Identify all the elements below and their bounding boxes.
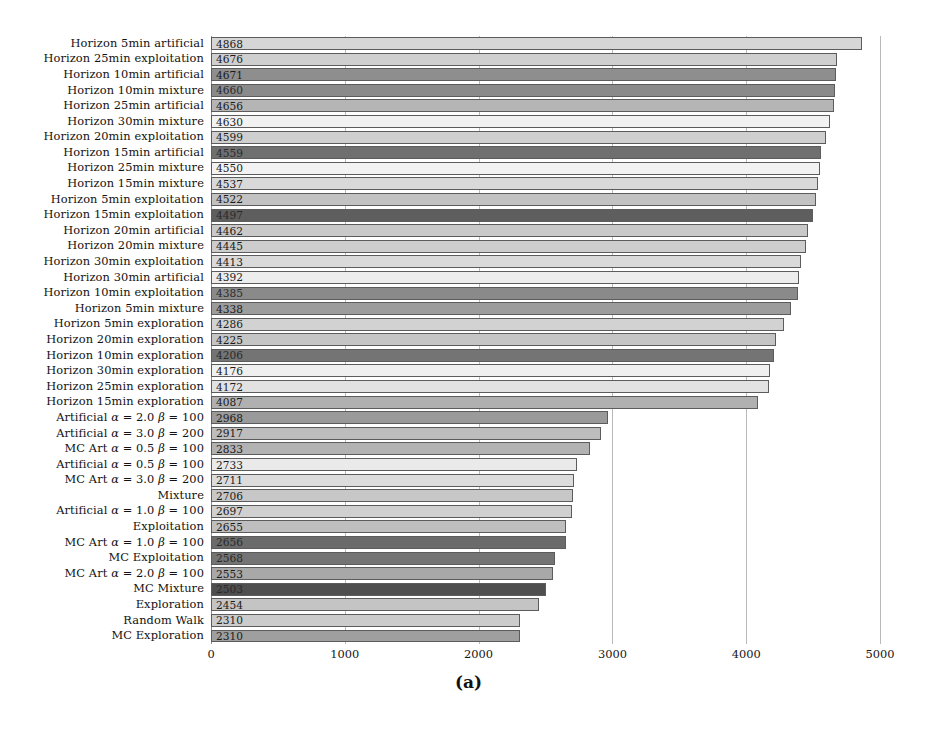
bar-row: Horizon 15min mixture4537: [211, 176, 880, 192]
bar-row: MC Art α = 2.0 β = 1002553: [211, 566, 880, 582]
bar-row: Exploration2454: [211, 597, 880, 613]
bar-category-label: Exploitation: [133, 521, 204, 532]
bar-row: MC Exploitation2568: [211, 550, 880, 566]
bar-category-label: Horizon 15min mixture: [67, 178, 204, 189]
bar: 2454: [211, 598, 539, 611]
bar-row: MC Art α = 1.0 β = 1002656: [211, 535, 880, 551]
x-tick-label-3000: 3000: [598, 647, 627, 661]
bar-category-label: Horizon 30min exploitation: [43, 256, 204, 267]
bar-category-label: MC Art α = 2.0 β = 100: [65, 568, 204, 579]
bar-row: Horizon 5min mixture4338: [211, 301, 880, 317]
bar-row: Horizon 15min artificial4559: [211, 145, 880, 161]
bar-category-label: Horizon 15min exploitation: [43, 210, 204, 221]
bar: 2503: [211, 583, 546, 596]
x-tick-label-0: 0: [207, 647, 214, 661]
bar-row: MC Art α = 0.5 β = 1002833: [211, 441, 880, 457]
bar: 2833: [211, 442, 590, 455]
bar-value-label: 2454: [216, 600, 243, 611]
bar-row: Horizon 20min artificial4462: [211, 223, 880, 239]
bar: 4087: [211, 396, 758, 409]
x-axis: 010002000300040005000: [211, 644, 880, 670]
bar: 4522: [211, 193, 816, 206]
bar-category-label: Horizon 5min mixture: [75, 303, 204, 314]
bar-value-label: 4497: [216, 210, 243, 221]
bar: 4392: [211, 271, 799, 284]
bar: 2310: [211, 630, 520, 643]
bar-value-label: 4522: [216, 194, 243, 205]
bar-category-label: Horizon 25min mixture: [67, 163, 204, 174]
bar: 2733: [211, 458, 577, 471]
bar-value-label: 4338: [216, 303, 243, 314]
bar-row: Horizon 10min exploration4206: [211, 348, 880, 364]
bar-category-label: Random Walk: [123, 615, 204, 626]
bar: 2697: [211, 505, 572, 518]
bar-value-label: 4286: [216, 319, 243, 330]
bar-row: Horizon 5min exploration4286: [211, 317, 880, 333]
bar-value-label: 4445: [216, 241, 243, 252]
bar-category-label: Artificial α = 3.0 β = 200: [56, 428, 204, 439]
bar-category-label: Horizon 30min exploration: [46, 365, 204, 376]
x-tick-label-1000: 1000: [330, 647, 359, 661]
bar-value-label: 4225: [216, 334, 243, 345]
bar-row: Horizon 25min exploration4172: [211, 379, 880, 395]
bar-row: Horizon 15min exploration4087: [211, 395, 880, 411]
bar-value-label: 4550: [216, 163, 243, 174]
bar: 4462: [211, 224, 808, 237]
bar-value-label: 4630: [216, 116, 243, 127]
bar-value-label: 4671: [216, 69, 243, 80]
bar-value-label: 4176: [216, 366, 243, 377]
bar: 4497: [211, 209, 813, 222]
bar-row: Horizon 30min mixture4630: [211, 114, 880, 130]
bar-value-label: 4385: [216, 288, 243, 299]
bar-category-label: Horizon 10min artificial: [63, 69, 204, 80]
bar-value-label: 4462: [216, 225, 243, 236]
bar-value-label: 4660: [216, 85, 243, 96]
bar-category-label: Horizon 15min artificial: [63, 147, 204, 158]
bar-row: Random Walk2310: [211, 613, 880, 629]
bar-category-label: Horizon 20min mixture: [67, 241, 204, 252]
bar: 4225: [211, 333, 776, 346]
bar-row: Horizon 30min exploration4176: [211, 363, 880, 379]
bar-value-label: 2656: [216, 537, 243, 548]
bar-category-label: MC Exploitation: [109, 553, 204, 564]
bar-value-label: 2711: [216, 475, 243, 486]
bar: 2655: [211, 520, 566, 533]
bar-value-label: 4599: [216, 132, 243, 143]
bar-value-label: 4206: [216, 350, 243, 361]
bar-row: Exploitation2655: [211, 519, 880, 535]
bar: 4537: [211, 177, 818, 190]
bar-value-label: 4413: [216, 257, 243, 268]
gridline-5000: [880, 36, 881, 644]
bar: 2568: [211, 552, 555, 565]
bar-row: Artificial α = 1.0 β = 1002697: [211, 504, 880, 520]
bar-category-label: Horizon 15min exploration: [46, 397, 204, 408]
bar-row: Horizon 20min exploration4225: [211, 332, 880, 348]
bar-category-label: MC Exploration: [111, 630, 204, 641]
bar-category-label: Horizon 5min exploration: [54, 319, 204, 330]
bar-category-label: MC Art α = 1.0 β = 100: [65, 537, 204, 548]
bar-category-label: Horizon 30min artificial: [63, 272, 204, 283]
bar-category-label: Horizon 25min artificial: [63, 100, 204, 111]
bar-row: Artificial α = 2.0 β = 1002968: [211, 410, 880, 426]
bar: 4338: [211, 302, 791, 315]
bar-value-label: 2503: [216, 584, 243, 595]
bar: 2968: [211, 411, 608, 424]
bar-row: Horizon 5min exploitation4522: [211, 192, 880, 208]
bar-value-label: 4537: [216, 179, 243, 190]
figure-caption: (a): [0, 672, 937, 692]
bar-value-label: 4172: [216, 381, 243, 392]
bar-value-label: 2310: [216, 631, 243, 642]
bar-row: Horizon 25min exploitation4676: [211, 52, 880, 68]
bar-value-label: 2568: [216, 553, 243, 564]
bar: 4630: [211, 115, 830, 128]
bar: 2656: [211, 536, 566, 549]
bar-category-label: Horizon 25min exploration: [46, 381, 204, 392]
bar-row: Artificial α = 3.0 β = 2002917: [211, 426, 880, 442]
bar: 4445: [211, 240, 806, 253]
bar-row: MC Mixture2503: [211, 582, 880, 598]
bar-category-label: Horizon 20min exploration: [46, 334, 204, 345]
bar: 4172: [211, 380, 769, 393]
x-tick-label-5000: 5000: [866, 647, 895, 661]
bar-row: Artificial α = 0.5 β = 1002733: [211, 457, 880, 473]
bar: 4550: [211, 162, 820, 175]
